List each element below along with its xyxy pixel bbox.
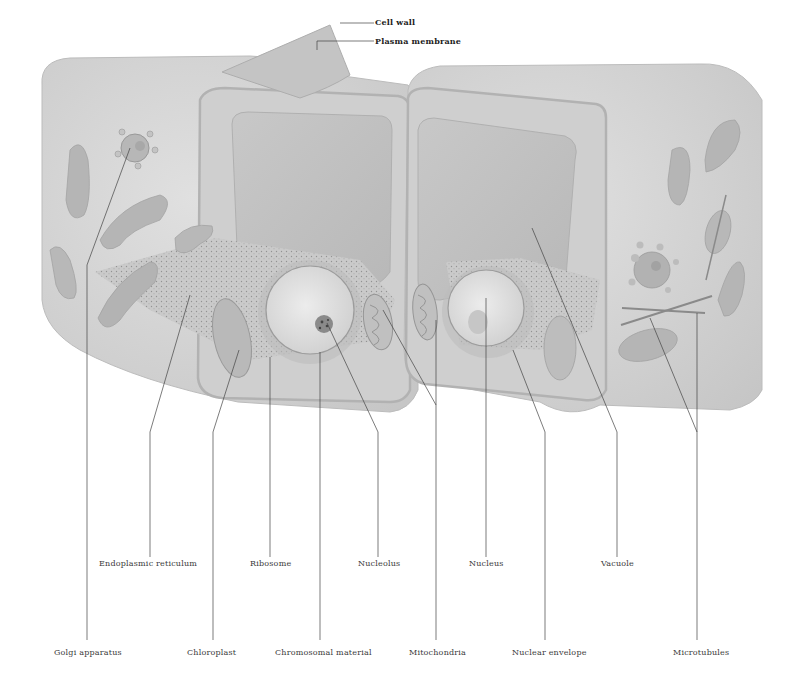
- label-microtubules: Microtubules: [673, 648, 729, 657]
- label-cell-wall: Cell wall: [375, 17, 415, 27]
- left-cell: [42, 25, 418, 412]
- plant-cell-diagram: Cell wall Plasma membrane Endoplasmic re…: [0, 0, 806, 695]
- nucleus-right: [442, 266, 534, 358]
- label-chromosomal-material: Chromosomal material: [275, 648, 372, 657]
- label-chloroplast: Chloroplast: [187, 648, 236, 657]
- label-golgi-apparatus: Golgi apparatus: [54, 648, 122, 657]
- label-nuclear-envelope: Nuclear envelope: [512, 648, 587, 657]
- label-nucleus: Nucleus: [469, 559, 504, 568]
- label-plasma-membrane: Plasma membrane: [375, 36, 461, 46]
- label-mitochondria: Mitochondria: [409, 648, 466, 657]
- right-cell: [404, 64, 762, 412]
- label-ribosome: Ribosome: [250, 559, 291, 568]
- nucleus-left: [258, 260, 362, 364]
- cell-illustration: [0, 0, 806, 695]
- label-vacuole: Vacuole: [601, 559, 634, 568]
- label-nucleolus: Nucleolus: [358, 559, 400, 568]
- label-endoplasmic-reticulum: Endoplasmic reticulum: [99, 559, 197, 568]
